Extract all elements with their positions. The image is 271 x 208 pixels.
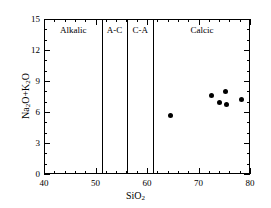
data-point [239, 97, 244, 102]
x-minor-tick-top [65, 19, 66, 22]
plot-area: AlkalicA-CC-ACalcic [44, 19, 250, 174]
region-divider-3 [153, 20, 154, 173]
x-axis-label-sub: 2 [142, 194, 146, 202]
x-minor-tick [168, 171, 169, 174]
x-tick-label: 40 [40, 178, 49, 188]
x-minor-tick [188, 171, 189, 174]
x-minor-tick-top [126, 19, 127, 22]
y-minor-tick-right [247, 133, 250, 134]
y-tick-label: 3 [18, 138, 40, 148]
y-axis-label-ok: O+K [20, 84, 31, 104]
data-point [168, 113, 173, 118]
y-major-tick-right [244, 19, 250, 20]
y-minor-tick-right [247, 71, 250, 72]
y-minor-tick-right [247, 60, 250, 61]
x-minor-tick-top [85, 19, 86, 22]
x-major-tick [147, 168, 148, 174]
x-minor-tick [219, 171, 220, 174]
x-minor-tick-top [116, 19, 117, 22]
y-major-tick [44, 81, 50, 82]
y-major-tick [44, 143, 50, 144]
x-major-tick-top [250, 19, 251, 25]
x-major-tick-top [147, 19, 148, 25]
x-major-tick [199, 168, 200, 174]
x-minor-tick [240, 171, 241, 174]
data-point [224, 102, 229, 107]
x-minor-tick-top [229, 19, 230, 22]
x-minor-tick [106, 171, 107, 174]
x-minor-tick-top [106, 19, 107, 22]
y-major-tick [44, 112, 50, 113]
y-minor-tick [44, 60, 47, 61]
x-minor-tick-top [188, 19, 189, 22]
y-major-tick-right [244, 50, 250, 51]
x-major-tick [250, 168, 251, 174]
x-minor-tick-top [209, 19, 210, 22]
x-tick-label: 80 [246, 178, 255, 188]
y-minor-tick [44, 102, 47, 103]
y-tick-label: 12 [18, 45, 40, 55]
x-minor-tick-top [178, 19, 179, 22]
y-minor-tick-right [247, 122, 250, 123]
y-major-tick [44, 19, 50, 20]
region-divider-1 [102, 20, 103, 173]
y-minor-tick [44, 164, 47, 165]
x-minor-tick [157, 171, 158, 174]
x-tick-label: 70 [194, 178, 203, 188]
region-divider-2 [127, 20, 128, 173]
y-major-tick-right [244, 143, 250, 144]
x-major-tick-top [96, 19, 97, 25]
x-minor-tick [209, 171, 210, 174]
x-major-tick-top [199, 19, 200, 25]
x-minor-tick [54, 171, 55, 174]
y-minor-tick-right [247, 164, 250, 165]
x-minor-tick [178, 171, 179, 174]
y-minor-tick [44, 71, 47, 72]
x-tick-label: 50 [91, 178, 100, 188]
x-minor-tick [126, 171, 127, 174]
y-minor-tick [44, 40, 47, 41]
figure-scatter-plot: Na2O+K2O SiO2 AlkalicA-CC-ACalcic 405060… [0, 0, 271, 208]
data-point [209, 93, 214, 98]
x-minor-tick [65, 171, 66, 174]
x-axis-label: SiO2 [0, 190, 271, 204]
x-minor-tick [75, 171, 76, 174]
y-tick-label: 0 [18, 169, 40, 179]
x-minor-tick-top [137, 19, 138, 22]
x-minor-tick-top [75, 19, 76, 22]
y-tick-label: 9 [18, 76, 40, 86]
x-minor-tick-top [54, 19, 55, 22]
x-minor-tick [229, 171, 230, 174]
y-minor-tick [44, 133, 47, 134]
y-major-tick-right [244, 81, 250, 82]
x-major-tick [96, 168, 97, 174]
data-point [217, 100, 222, 105]
y-minor-tick-right [247, 102, 250, 103]
x-axis-label-sio: SiO [126, 190, 142, 201]
y-major-tick [44, 174, 50, 175]
y-minor-tick-right [247, 153, 250, 154]
y-major-tick-right [244, 174, 250, 175]
y-minor-tick [44, 29, 47, 30]
y-major-tick-right [244, 112, 250, 113]
y-minor-tick-right [247, 29, 250, 30]
y-minor-tick-right [247, 40, 250, 41]
x-tick-label: 60 [143, 178, 152, 188]
data-point [223, 89, 228, 94]
y-minor-tick [44, 122, 47, 123]
y-minor-tick [44, 153, 47, 154]
x-minor-tick [116, 171, 117, 174]
y-tick-label: 6 [18, 107, 40, 117]
region-label-calcic: Calcic [162, 25, 242, 35]
y-major-tick [44, 50, 50, 51]
x-minor-tick [85, 171, 86, 174]
x-minor-tick-top [157, 19, 158, 22]
y-minor-tick [44, 91, 47, 92]
y-tick-label: 15 [18, 14, 40, 24]
x-minor-tick-top [240, 19, 241, 22]
data-layer: AlkalicA-CC-ACalcic [45, 20, 249, 173]
x-minor-tick [137, 171, 138, 174]
x-minor-tick-top [219, 19, 220, 22]
y-minor-tick-right [247, 91, 250, 92]
x-minor-tick-top [168, 19, 169, 22]
